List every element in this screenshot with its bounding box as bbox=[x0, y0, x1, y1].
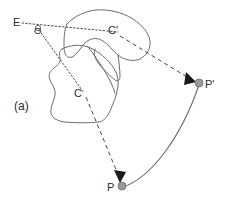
curved-trajectory-P-to-P-prime bbox=[123, 85, 199, 187]
label-point-P: P bbox=[107, 181, 114, 193]
point-P-prime-marker bbox=[195, 79, 203, 87]
label-origin-O: O bbox=[34, 25, 41, 36]
arrowhead-P-icon bbox=[114, 170, 126, 183]
label-contour-C: C bbox=[74, 87, 82, 99]
contour-C bbox=[49, 45, 118, 122]
contour-C-outline bbox=[49, 45, 118, 122]
panel-label: (a) bbox=[14, 99, 29, 113]
dashed-arrow-to-P-prime bbox=[120, 36, 192, 80]
diagram-canvas: E O C' C P' P (a) bbox=[0, 0, 226, 209]
figure-panel: E O C' C P' P (a) bbox=[0, 0, 226, 209]
dashed-arrow-to-P bbox=[86, 97, 119, 177]
label-point-P-prime: P' bbox=[205, 78, 214, 90]
arrowhead-P-prime-icon bbox=[184, 72, 196, 85]
dotted-ray-O-to-C bbox=[39, 30, 84, 93]
label-contour-C-prime: C' bbox=[108, 24, 118, 36]
contour-C-fold bbox=[88, 47, 115, 93]
label-eye-E: E bbox=[13, 16, 20, 28]
point-P-marker bbox=[118, 182, 126, 190]
